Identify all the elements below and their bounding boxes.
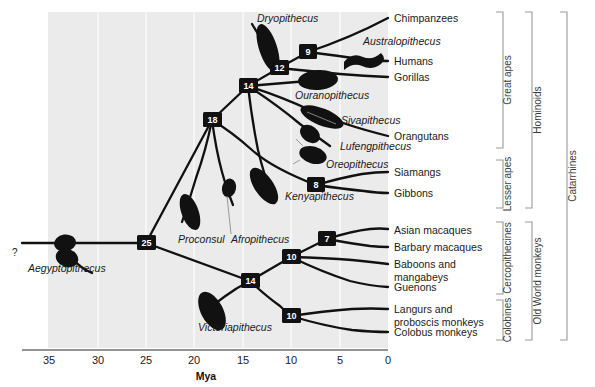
tip-label-guenons: Guenons: [394, 281, 437, 293]
tip-label-colobus-monkeys: Colobus monkeys: [394, 326, 477, 338]
group-label-old-world-monkeys: Old World monkeys: [532, 237, 543, 324]
tick-label-15: 15: [237, 354, 249, 366]
x-axis-title: Mya: [196, 370, 217, 382]
node-14-hominoid: 14: [239, 78, 258, 93]
node-label: 14: [245, 276, 255, 286]
node-10-colobine: 10: [282, 308, 301, 323]
tip-label-langurs: Langurs and: [394, 303, 453, 315]
node-label: 14: [243, 81, 253, 91]
node-12: 12: [270, 60, 289, 75]
tick-label-10: 10: [285, 354, 297, 366]
node-10-cercopithecine: 10: [282, 249, 301, 264]
tip-label-asian-macaques: Asian macaques: [394, 224, 472, 236]
tick-label-35: 35: [43, 354, 55, 366]
node-label: 10: [286, 311, 296, 321]
tip-label-gorillas: Gorillas: [394, 71, 430, 83]
tip-label-gibbons: Gibbons: [394, 187, 433, 199]
group-label-great-apes: Great apes: [502, 55, 513, 104]
node-9: 9: [299, 44, 317, 59]
node-18: 18: [203, 112, 222, 127]
node-14-owm: 14: [241, 273, 260, 288]
node-label: 9: [305, 47, 310, 57]
tip-label-barbary-macaques: Barbary macaques: [394, 241, 482, 253]
node-label: 25: [141, 238, 151, 248]
group-label-catarrhines: Catarrhines: [567, 150, 578, 202]
group-label-lesser-apes: Lesser apes: [502, 157, 513, 211]
node-label: 8: [313, 180, 318, 190]
tip-label-humans: Humans: [394, 55, 433, 67]
node-7: 7: [318, 231, 336, 246]
group-label-colobines: Colobines: [502, 298, 513, 342]
fossil-label-aegyptopithecus: Aegyptopithecus: [27, 262, 106, 274]
fossil-label-oreopithecus: Oreopithecus: [326, 158, 389, 170]
phylogenetic-tree-figure: 25 18 14 12 9 8 14 10 7 10 Dryopithecus: [0, 0, 595, 387]
group-label-cercopithecines: Cercopithecines: [502, 222, 513, 294]
tick-label-5: 5: [337, 354, 343, 366]
group-label-hominoids: Hominoids: [532, 86, 543, 133]
bracket-catarrhines: [560, 12, 567, 340]
fossil-label-ouranopithecus: Ouranopithecus: [295, 89, 370, 101]
tick-label-25: 25: [140, 354, 152, 366]
tip-label-chimpanzees: Chimpanzees: [394, 12, 458, 24]
figure-root: 25 18 14 12 9 8 14 10 7 10 Dryopithecus: [0, 0, 595, 387]
fossil-label-proconsul: Proconsul: [178, 233, 225, 245]
fossil-label-kenyapithecus: Kenyapithecus: [285, 190, 355, 202]
tip-label-siamangs: Siamangs: [394, 166, 441, 178]
fossil-label-afropithecus: Afropithecus: [230, 233, 290, 245]
group-brackets: Great apes Lesser apes Cercopithecines C…: [496, 12, 578, 342]
x-axis: 35 30 25 20 15 10 5 0 Mya: [22, 350, 391, 382]
fossil-label-sivapithecus: Sivapithecus: [341, 114, 401, 126]
node-label: 12: [274, 63, 284, 73]
node-label: 7: [324, 234, 329, 244]
fossil-label-victoriapithecus: Victoriapithecus: [198, 321, 273, 333]
node-label: 18: [207, 115, 217, 125]
tip-labels: Chimpanzees Humans Gorillas Orangutans S…: [394, 12, 484, 338]
tip-label-baboons: Baboons and: [394, 258, 456, 270]
tick-label-30: 30: [92, 354, 104, 366]
tick-label-20: 20: [188, 354, 200, 366]
fossil-label-dryopithecus: Dryopithecus: [257, 12, 319, 24]
bracket-hominoids: [525, 12, 532, 208]
node-25: 25: [137, 235, 156, 250]
tick-label-0: 0: [385, 354, 391, 366]
tip-label-orangutans: Orangutans: [394, 130, 449, 142]
uncertainty-question-mark: ?: [12, 247, 18, 258]
bracket-old-world-monkeys: [525, 222, 532, 340]
fossil-label-australopithecus: Australopithecus: [362, 35, 441, 47]
node-label: 10: [286, 252, 296, 262]
